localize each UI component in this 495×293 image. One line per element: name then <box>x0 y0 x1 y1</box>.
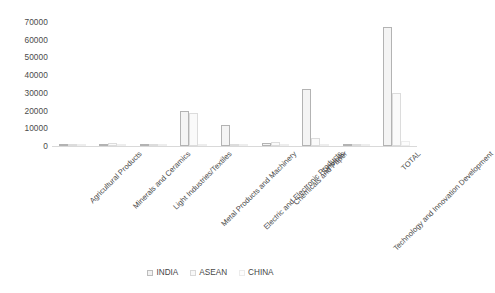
bar[interactable] <box>302 89 311 146</box>
plot-area <box>52 22 417 146</box>
bar[interactable] <box>239 144 248 146</box>
bar-group <box>133 22 174 146</box>
legend-label: INDIA <box>156 268 178 277</box>
bar[interactable] <box>140 144 149 146</box>
y-axis-tick: 60000 <box>2 36 48 45</box>
bar-group <box>174 22 215 146</box>
bar-group <box>52 22 93 146</box>
bar[interactable] <box>59 144 68 146</box>
bar[interactable] <box>117 144 126 146</box>
y-axis-tick: 70000 <box>2 18 48 27</box>
bar-group <box>377 22 418 146</box>
x-axis-label-slot: TOTAL <box>377 148 418 258</box>
bar[interactable] <box>383 27 392 146</box>
x-axis-label-slot: Chemicals and Paper <box>255 148 296 258</box>
legend-item-asean[interactable]: ASEAN <box>190 268 227 277</box>
bar[interactable] <box>361 144 370 146</box>
y-axis-tick: 0 <box>2 142 48 151</box>
bar[interactable] <box>401 141 410 146</box>
x-axis-label-slot: Agricultural Products <box>52 148 93 258</box>
x-axis-label-slot: Electric and Electronic Products <box>214 148 255 258</box>
x-axis-label-slot: Technology and Innovation Development <box>336 148 377 258</box>
bar-group <box>336 22 377 146</box>
legend-item-china[interactable]: CHINA <box>239 268 273 277</box>
y-axis-tick: 40000 <box>2 71 48 80</box>
legend-label: ASEAN <box>199 268 227 277</box>
bar[interactable] <box>149 144 158 146</box>
x-axis-line <box>52 146 417 147</box>
bar[interactable] <box>158 144 167 146</box>
legend-swatch-icon <box>190 270 196 276</box>
bar[interactable] <box>108 143 117 146</box>
bar[interactable] <box>392 93 401 146</box>
bar-group <box>295 22 336 146</box>
x-axis-label-slot: Services <box>295 148 336 258</box>
bar[interactable] <box>99 144 108 146</box>
bar[interactable] <box>230 144 239 146</box>
bar-group <box>255 22 296 146</box>
bar[interactable] <box>280 144 289 146</box>
y-axis-tick: 20000 <box>2 107 48 116</box>
y-axis: 70000 60000 50000 40000 30000 20000 1000… <box>0 0 48 160</box>
bar[interactable] <box>311 138 320 146</box>
legend-swatch-icon <box>147 270 153 276</box>
bar[interactable] <box>198 144 207 146</box>
bar-group <box>93 22 134 146</box>
legend-label: CHINA <box>248 268 273 277</box>
x-axis-label-slot: Metal Products and Machinery <box>174 148 215 258</box>
bar[interactable] <box>77 144 86 146</box>
bar[interactable] <box>68 144 77 146</box>
x-axis-labels: Agricultural ProductsMinerals and Cerami… <box>52 148 417 258</box>
bar[interactable] <box>180 111 189 146</box>
bar-group <box>214 22 255 146</box>
x-axis-label-slot: Minerals and Ceramics <box>93 148 134 258</box>
y-axis-tick: 10000 <box>2 124 48 133</box>
bar[interactable] <box>320 144 329 146</box>
legend: INDIA ASEAN CHINA <box>0 268 421 277</box>
bar[interactable] <box>262 143 271 146</box>
bar[interactable] <box>221 125 230 146</box>
y-axis-tick: 30000 <box>2 89 48 98</box>
x-axis-label: TOTAL <box>400 150 422 172</box>
bar[interactable] <box>189 113 198 146</box>
legend-item-india[interactable]: INDIA <box>147 268 178 277</box>
x-axis-label-slot: Light Industries/Textiles <box>133 148 174 258</box>
y-axis-tick: 50000 <box>2 53 48 62</box>
bar[interactable] <box>271 142 280 146</box>
bar[interactable] <box>352 144 361 146</box>
bar[interactable] <box>343 144 352 146</box>
legend-swatch-icon <box>239 270 245 276</box>
